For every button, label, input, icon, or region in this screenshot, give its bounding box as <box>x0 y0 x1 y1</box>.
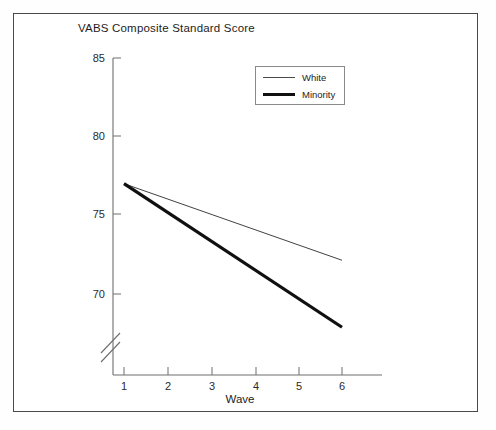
legend-swatch-white-icon <box>263 77 295 78</box>
x-axis-title-text: Wave <box>226 393 255 405</box>
chart-svg: 85 80 75 70 1 2 3 4 5 6 <box>0 0 496 430</box>
x-tick-label-1: 1 <box>121 380 127 392</box>
x-tick-label-5: 5 <box>296 380 302 392</box>
x-tick-label-3: 3 <box>209 380 215 392</box>
figure-canvas: VABS Composite Standard Score 85 80 75 7… <box>0 0 496 430</box>
y-tick-label-70: 70 <box>93 288 105 300</box>
y-tick-label-75: 75 <box>93 208 105 220</box>
legend-item-white: White <box>256 70 346 85</box>
y-tick-label-85: 85 <box>93 52 105 64</box>
legend-label-white: White <box>302 72 326 83</box>
legend-item-minority: Minority <box>256 87 346 102</box>
x-tick-label-2: 2 <box>165 380 171 392</box>
chart-legend: White Minority <box>255 66 345 105</box>
y-tick-label-80: 80 <box>93 130 105 142</box>
series-line-minority <box>124 184 342 328</box>
legend-label-minority: Minority <box>302 89 335 100</box>
line-chart: 85 80 75 70 1 2 3 4 5 6 <box>0 0 496 430</box>
x-tick-label-4: 4 <box>253 380 259 392</box>
series-line-white <box>124 184 342 261</box>
x-axis-title: Wave <box>0 393 496 405</box>
y-axis-break-icon <box>101 333 120 362</box>
legend-swatch-minority-icon <box>263 93 295 96</box>
x-tick-label-6: 6 <box>339 380 345 392</box>
